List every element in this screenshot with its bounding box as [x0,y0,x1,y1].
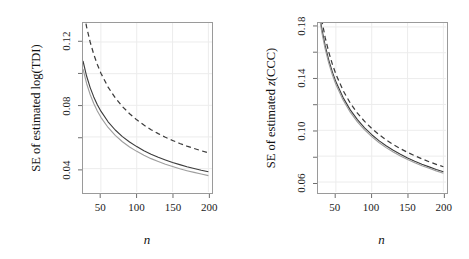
y-tick-label: 0.14 [295,69,307,88]
series-middle-solid [318,23,443,172]
x-tick-label: 150 [165,201,182,213]
series-lower-gray [318,23,443,173]
plot-area-z-ccc [317,22,448,194]
series-middle-solid [83,61,208,172]
y-tick-label: 0.18 [295,16,307,35]
series-upper-dashed [83,23,208,153]
plot-area-log-tdi [82,22,213,194]
y-tick-label: 0.12 [60,32,72,51]
figure-two-panel-se-plots: 50100150200 0.040.080.12 SE of estimated… [0,0,469,259]
x-tick-label: 100 [128,201,145,213]
curves-log-tdi [83,23,212,192]
x-tick-label: 150 [399,201,416,213]
y-tick-label: 0.10 [295,121,307,140]
x-tick-label: 200 [436,201,453,213]
y-tick-label: 0.04 [60,160,72,179]
x-tick-label: 50 [329,201,340,213]
y-axis-title-z-ccc-text: SE of estimated z(CCC) [263,48,277,169]
y-axis-title-z-ccc: SE of estimated z(CCC) [263,48,278,169]
curves-z-ccc [318,23,447,192]
panel-log-tdi: 50100150200 0.040.080.12 SE of estimated… [0,0,235,259]
x-tick-label: 100 [363,201,380,213]
x-tick-label: 50 [95,201,106,213]
y-axis-title-log-tdi: SE of estimated log(TDI) [29,44,44,171]
panel-z-ccc: 50100150200 0.060.100.140.18 SE of estim… [235,0,469,259]
series-upper-dashed [318,23,443,167]
x-tick-label: 200 [201,201,218,213]
y-tick-label: 0.06 [295,174,307,193]
series-lower-gray [83,69,208,176]
x-axis-title-log-tdi: n [144,232,151,248]
x-axis-title-z-ccc: n [378,232,385,248]
y-tick-label: 0.08 [60,96,72,115]
